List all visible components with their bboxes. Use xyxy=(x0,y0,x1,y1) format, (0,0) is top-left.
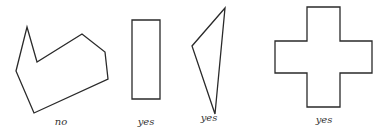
cross-shape xyxy=(275,7,372,107)
rectangle-shape xyxy=(132,20,160,99)
triangle-shape xyxy=(192,8,225,114)
label-cross: yes xyxy=(316,114,333,125)
concave-polygon-shape xyxy=(16,27,108,113)
label-rectangle: yes xyxy=(138,116,155,127)
label-triangle: yes xyxy=(201,112,218,123)
label-concave-polygon: no xyxy=(55,116,67,127)
